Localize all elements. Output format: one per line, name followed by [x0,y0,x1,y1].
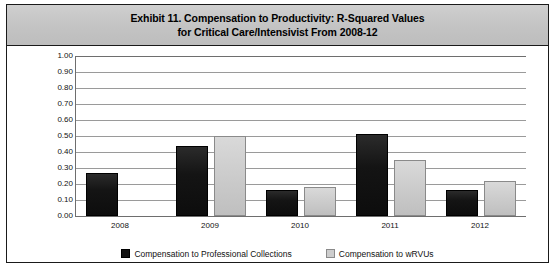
bar-2010-light [304,187,336,216]
bar-2012-light [484,181,516,216]
page-title-line-2: for Critical Care/Intensivist From 2008-… [177,25,377,39]
y-axis-tick-0.80: 0.80 [33,84,73,92]
y-axis-tick-1.00: 1.00 [33,52,73,60]
y-axis-tick-0.60: 0.60 [33,116,73,124]
y-axis-tick-0.30: 0.30 [33,164,73,172]
bar-2010-dark [266,190,298,216]
y-axis-tick-0.40: 0.40 [33,148,73,156]
page-title-line-1: Exhibit 11. Compensation to Productivity… [130,11,424,25]
legend-item-label: Compensation to wRVUs [339,249,434,259]
y-axis-tick-0.50: 0.50 [33,132,73,140]
y-axis-tick-0.10: 0.10 [33,196,73,204]
chart-figure: Exhibit 11. Compensation to Productivity… [6,4,549,263]
y-axis-tick-0.00: 0.00 [33,212,73,220]
y-axis-tick-0.20: 0.20 [33,180,73,188]
legend-item-1: Compensation to wRVUs [326,249,434,259]
bar-2011-light [394,160,426,216]
x-axis-tick-2012: 2012 [435,220,525,234]
x-axis-tick-2011: 2011 [345,220,435,234]
x-axis-tick-2008: 2008 [75,220,165,234]
x-axis-tick-2010: 2010 [255,220,345,234]
light-square-icon [326,249,335,258]
bar-2009-dark [176,146,208,216]
dark-square-icon [121,249,130,258]
plot-area [75,56,526,217]
bar-group-2012 [436,56,526,216]
bar-group-2010 [256,56,346,216]
bar-2009-light [214,136,246,216]
bar-2012-dark [446,190,478,216]
bar-group-2009 [166,56,256,216]
y-axis-tick-labels: 1.000.900.800.700.600.500.400.300.200.10… [31,56,73,216]
bar-groups [76,56,526,216]
legend-item-label: Compensation to Professional Collections [134,249,291,259]
y-axis-tick-0.70: 0.70 [33,100,73,108]
chart-title-banner: Exhibit 11. Compensation to Productivity… [7,5,548,46]
plot-wrapper: 1.000.900.800.700.600.500.400.300.200.10… [7,46,548,262]
bar-group-2008 [76,56,166,216]
x-axis-tick-2009: 2009 [165,220,255,234]
bar-2008-dark [86,173,118,216]
legend-item-0: Compensation to Professional Collections [121,249,291,259]
chart-legend: Compensation to Professional Collections… [7,245,548,262]
y-axis-tick-0.90: 0.90 [33,68,73,76]
x-axis-tick-labels: 20082009201020112012 [75,220,525,234]
bar-2011-dark [356,134,388,216]
bar-group-2011 [346,56,436,216]
